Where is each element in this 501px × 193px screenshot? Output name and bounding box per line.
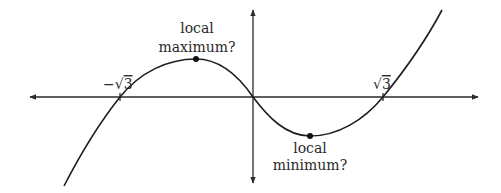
cubic-function-diagram: −√3 √3 local maximum? local minimum? [0,0,501,193]
local-min-label-line2: minimum? [273,157,347,173]
label-neg-sqrt3-radical: −√ [103,76,124,92]
label-pos-sqrt3: √3 [373,76,391,92]
local-max-label-line1: local [180,20,214,36]
label-pos-sqrt3-digit: 3 [382,76,391,92]
label-neg-sqrt3: −√3 [103,76,133,92]
local-max-label-line2: maximum? [158,39,235,55]
local-max-point [193,56,199,62]
local-min-point [307,133,313,139]
label-pos-sqrt3-radical: √ [373,76,382,92]
local-min-label-line1: local [293,140,327,156]
label-neg-sqrt3-digit: 3 [124,76,133,92]
